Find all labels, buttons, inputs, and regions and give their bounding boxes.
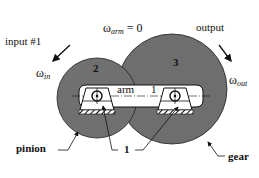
omega-in-label: ωin (36, 64, 50, 81)
omega-out-label: ωout (229, 71, 247, 88)
output-label: output (196, 22, 224, 33)
pinion-label: pinion (16, 143, 46, 154)
input-arrow (53, 45, 70, 61)
omega-symbol: ω (103, 21, 111, 35)
input-label: input #1 (5, 36, 41, 47)
omega-out-subscript: out (237, 79, 247, 88)
gear-leader (208, 142, 225, 156)
gear-train-diagram: input #1 ωin ωarm = 0 output ωout 2 3 ar… (0, 0, 259, 178)
omega-symbol: ω (229, 73, 237, 87)
output-arrow (219, 45, 231, 61)
pinion-number: 2 (93, 63, 99, 74)
omega-arm-value: = 0 (124, 21, 143, 35)
ground-number: 1 (124, 144, 130, 155)
omega-symbol: ω (36, 66, 44, 80)
pinion-leader (58, 132, 78, 150)
omega-arm-label: ωarm = 0 (103, 19, 143, 36)
gear-label: gear (228, 151, 249, 162)
arm-label: arm (117, 84, 134, 95)
omega-in-subscript: in (44, 72, 50, 81)
arm-link-number: 1 (151, 84, 157, 95)
omega-arm-subscript: arm (111, 27, 124, 36)
gear-number: 3 (173, 57, 179, 68)
